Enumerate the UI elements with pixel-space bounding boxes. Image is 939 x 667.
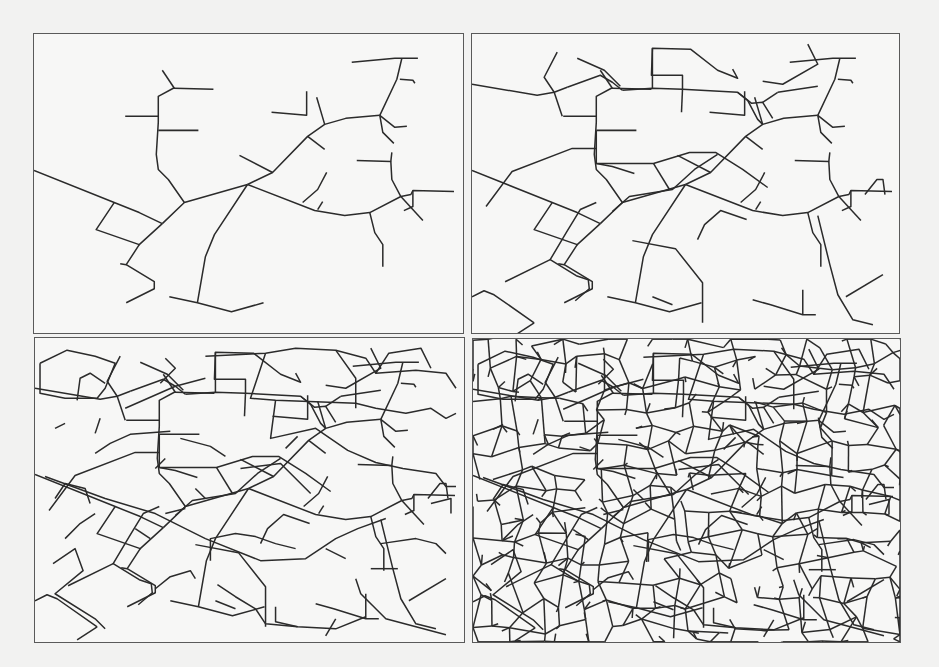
crack-segment (676, 469, 677, 475)
crack-segment (473, 565, 481, 576)
crack-segment (606, 600, 612, 626)
crack-segment (156, 88, 213, 202)
crack-segment (579, 581, 585, 609)
crack-segment (632, 608, 633, 618)
crack-segment (746, 136, 763, 149)
crack-segment (729, 563, 730, 568)
crack-segment (605, 538, 621, 545)
crack-segment (488, 368, 490, 377)
crack-segment (737, 360, 741, 390)
crack-network (473, 339, 900, 642)
crack-segment (624, 465, 657, 473)
crack-segment (473, 538, 502, 541)
crack-segment (800, 366, 833, 370)
crack-segment (210, 534, 295, 561)
crack-segment (401, 191, 454, 197)
crack-segment (273, 395, 308, 419)
crack-segment (773, 537, 777, 568)
crack-segment (851, 578, 854, 587)
crack-segment (544, 599, 545, 634)
crack-segment (664, 559, 679, 578)
crack-segment (652, 297, 672, 305)
crack-segment (381, 539, 446, 554)
crack-segment (370, 213, 383, 267)
crack-segment (490, 368, 498, 387)
crack-segment (558, 575, 563, 608)
crack-segment (197, 185, 247, 303)
crack-segment (581, 536, 585, 565)
crack-segment (380, 58, 402, 115)
crack-segment (886, 344, 893, 353)
crack-segment (711, 396, 746, 420)
crack-segment (687, 489, 840, 520)
crack-segment (773, 534, 808, 536)
crack-segment (832, 441, 848, 446)
crack-segment (594, 88, 651, 202)
crack-segment (818, 115, 845, 127)
crack-segment (117, 396, 125, 420)
crack-segment (731, 579, 737, 603)
crack-segment (818, 115, 832, 143)
crack-segment (643, 364, 653, 389)
crack-segment (797, 469, 832, 475)
crack-segment (488, 339, 490, 368)
crack-segment (755, 587, 758, 597)
crack-segment (884, 425, 897, 449)
crack-segment (773, 568, 777, 571)
crack-segment (758, 534, 762, 555)
crack-segment (557, 489, 575, 491)
crack-segment (668, 432, 676, 440)
crack-segment (646, 403, 650, 413)
crack-segment (135, 529, 150, 539)
crack-segment (650, 485, 651, 509)
crack-segment (710, 91, 745, 115)
crack-segment (319, 506, 324, 514)
crack-segment (271, 400, 456, 486)
crack-segment (710, 633, 719, 642)
crack-segment (544, 435, 562, 436)
crack-segment (598, 582, 606, 600)
crack-segment (722, 422, 723, 431)
crack-segment (634, 384, 643, 389)
crack-segment (501, 524, 502, 540)
crack-segment (723, 339, 730, 347)
crack-segment (381, 520, 436, 629)
crack-segment (77, 627, 97, 640)
crack-segment (276, 607, 298, 627)
crack-segment (401, 383, 416, 387)
crack-network (34, 34, 463, 333)
crack-segment (797, 421, 807, 453)
crack-segment (839, 197, 861, 221)
crack-segment (95, 418, 100, 433)
crack-segment (555, 475, 557, 488)
crack-segment (318, 202, 323, 210)
crack-segment (248, 419, 380, 488)
crack-segment (891, 530, 900, 541)
crack-segment (126, 265, 154, 303)
crack-segment (326, 396, 341, 406)
crack-segment (513, 391, 519, 392)
crack-segment (685, 377, 686, 382)
crack-segment (558, 245, 577, 265)
crack-segment (709, 511, 730, 512)
panel-stage-1: top-left (33, 33, 464, 334)
crack-segment (686, 450, 715, 453)
crack-segment (205, 348, 456, 388)
crack-segment (35, 595, 97, 627)
crack-segment (533, 419, 538, 434)
crack-segment (671, 487, 675, 519)
crack-segment (780, 441, 797, 454)
crack-segment (761, 630, 767, 631)
crack-segment (247, 115, 379, 184)
crack-segment (473, 454, 492, 457)
crack-segment (867, 428, 878, 445)
crack-segment (677, 541, 681, 550)
crack-segment (606, 600, 633, 608)
crack-segment (818, 216, 873, 325)
crack-segment (500, 396, 511, 398)
crack-segment (598, 565, 599, 582)
crack-segment (544, 52, 557, 92)
crack-segment (871, 339, 875, 364)
crack-segment (391, 161, 401, 196)
crack-segment (513, 356, 517, 391)
